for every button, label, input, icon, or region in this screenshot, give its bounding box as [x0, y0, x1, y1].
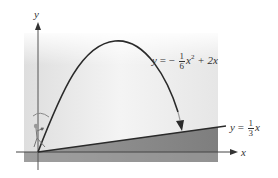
y-axis-label: y [34, 9, 39, 20]
ground-strip [24, 152, 218, 162]
projectile-diagram: y x y = − 16x2 + 2x y = 13x [0, 0, 278, 178]
line-frac-denominator: 3 [248, 129, 255, 138]
line-lhs: y [230, 121, 235, 133]
x-axis-label: x [241, 147, 246, 158]
line-eq-sign: = [238, 121, 244, 133]
parabola-exponent: 2 [191, 53, 195, 61]
line-equation-label: y = 13x [230, 119, 260, 138]
y-axis-arrow-icon [35, 22, 41, 30]
x-axis-arrow-icon [230, 149, 238, 155]
parabola-equation-label: y = − 16x2 + 2x [152, 52, 218, 71]
diagram-canvas [0, 0, 278, 178]
line-fraction: 13 [248, 119, 255, 138]
parabola-lhs: y [152, 54, 157, 66]
parabola-eq-sign: = [160, 54, 166, 66]
parabola-linear-term: + 2x [197, 54, 218, 66]
line-variable: x [255, 121, 260, 133]
parabola-fraction: 16 [179, 52, 186, 71]
parabola-minus-sign: − [169, 54, 175, 66]
parabola-frac-denominator: 6 [179, 62, 186, 71]
